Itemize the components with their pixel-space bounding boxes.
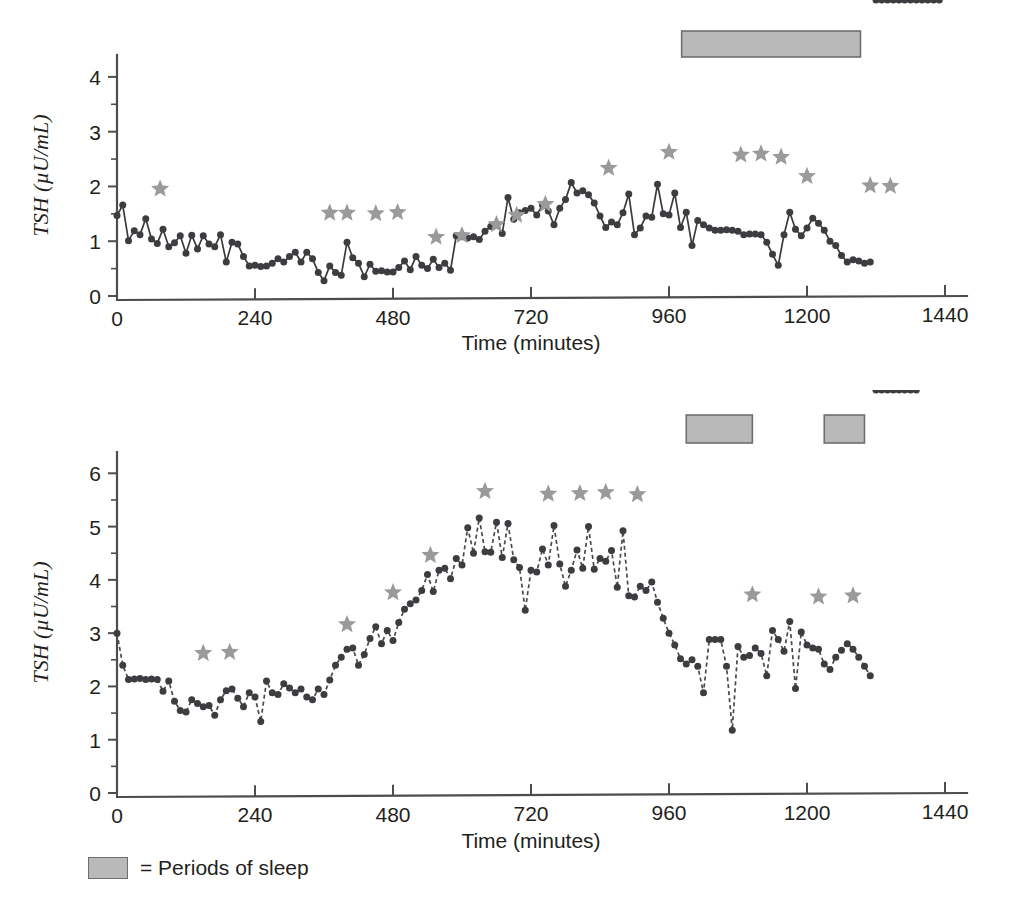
y-tick-label-6: 6 [89, 462, 101, 485]
data-point [177, 232, 184, 239]
data-point [407, 600, 414, 607]
data-point [148, 236, 155, 243]
x-tick-label-720: 720 [513, 305, 548, 328]
data-point [809, 215, 816, 222]
data-point [700, 689, 707, 696]
data-point [229, 686, 236, 693]
data-point [453, 555, 460, 562]
data-point [758, 650, 765, 657]
data-point [781, 648, 788, 655]
data-point [183, 709, 190, 716]
pulse-star-marker [881, 177, 899, 194]
sleep-period-bar-1 [686, 415, 752, 443]
data-point [401, 606, 408, 613]
data-point [746, 652, 753, 659]
data-point [804, 225, 811, 232]
data-point [367, 635, 374, 642]
data-point [436, 264, 443, 271]
data-point [694, 663, 701, 670]
data-point [533, 568, 540, 575]
x-axis-line [117, 793, 967, 797]
sleep-period-swatch [88, 857, 128, 879]
y-tick-label-3: 3 [89, 121, 101, 144]
data-point [556, 560, 563, 567]
data-point [395, 264, 402, 271]
x-tick-label-1440: 1440 [922, 303, 969, 326]
data-point [487, 549, 494, 556]
pulse-star-marker [861, 176, 879, 193]
data-point [832, 242, 839, 249]
data-point [620, 209, 627, 216]
data-point [551, 221, 558, 228]
data-point [338, 654, 345, 661]
data-point [637, 583, 644, 590]
pulse-star-marker [321, 203, 339, 220]
data-point [832, 654, 839, 661]
data-point [240, 703, 247, 710]
data-point [401, 257, 408, 264]
pulse-star-marker [367, 204, 385, 221]
data-point [643, 587, 650, 594]
y-tick-label-2: 2 [89, 675, 101, 698]
data-point [654, 599, 661, 606]
data-point [142, 215, 149, 222]
data-point [551, 522, 558, 529]
data-point [913, 390, 920, 394]
data-point [861, 663, 868, 670]
data-point [298, 686, 305, 693]
data-point [424, 265, 431, 272]
data-point [321, 691, 328, 698]
data-point [326, 677, 333, 684]
data-point [292, 249, 299, 256]
data-point [620, 527, 627, 534]
data-point [562, 196, 569, 203]
data-point [137, 231, 144, 238]
data-point [119, 662, 126, 669]
data-point [758, 231, 765, 238]
data-point [729, 727, 736, 734]
data-point [625, 191, 632, 198]
data-point [671, 641, 678, 648]
data-point [355, 662, 362, 669]
data-point [516, 564, 523, 571]
data-point [579, 187, 586, 194]
data-point [286, 253, 293, 260]
data-point [464, 524, 471, 531]
data-point [338, 272, 345, 279]
pulse-star-marker [660, 143, 678, 160]
pulse-star-marker [427, 228, 445, 245]
data-point [510, 556, 517, 563]
data-point [361, 651, 368, 658]
data-point [867, 672, 874, 679]
data-point [154, 676, 161, 683]
data-point [505, 194, 512, 201]
data-point [671, 190, 678, 197]
data-point [798, 629, 805, 636]
pulse-star-marker [389, 203, 407, 220]
data-point [430, 588, 437, 595]
data-point [815, 220, 822, 227]
data-point [390, 637, 397, 644]
data-point [482, 228, 489, 235]
data-point [424, 571, 431, 578]
data-point [585, 191, 592, 198]
data-point [781, 231, 788, 238]
x-tick-label-720: 720 [513, 802, 548, 825]
data-point [367, 261, 374, 268]
data-point [188, 696, 195, 703]
x-tick-label-480: 480 [375, 306, 410, 329]
y-tick-label-3: 3 [89, 622, 101, 645]
x-tick-label-0: 0 [111, 804, 123, 827]
data-point [200, 232, 207, 239]
data-point [614, 221, 621, 228]
x-axis-title: Time (minutes) [461, 331, 600, 354]
data-point [528, 205, 535, 212]
x-tick-label-0: 0 [111, 307, 123, 330]
data-point [689, 656, 696, 663]
data-point [545, 561, 552, 568]
pulse-star-marker [338, 615, 356, 632]
data-point [211, 243, 218, 250]
data-point [855, 654, 862, 661]
data-point [395, 619, 402, 626]
x-axis-title: Time (minutes) [461, 829, 600, 852]
